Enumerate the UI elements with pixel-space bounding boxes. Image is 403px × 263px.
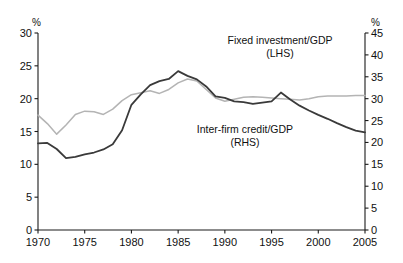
right-axis-tick-label: 0 bbox=[371, 224, 377, 236]
x-axis-tick-label: 2005 bbox=[353, 236, 377, 248]
right-axis-tick-label: 5 bbox=[371, 202, 377, 214]
x-axis-tick-label: 1990 bbox=[213, 236, 237, 248]
left-axis-tick-label: 0 bbox=[26, 224, 32, 236]
chart-container: 051015202530%051015202530354045%19701975… bbox=[0, 0, 403, 263]
left-axis-tick-label: 25 bbox=[20, 60, 32, 72]
annotations: Fixed investment/GDP(LHS)Inter-firm cred… bbox=[197, 34, 333, 148]
right-axis-tick-label: 30 bbox=[371, 93, 383, 105]
x-axis-tick-label: 1970 bbox=[26, 236, 50, 248]
right-axis-tick-label: 45 bbox=[371, 27, 383, 39]
fixed-investment-label-line2: (LHS) bbox=[266, 47, 293, 59]
left-axis-tick-label: 5 bbox=[26, 191, 32, 203]
right-axis-tick-label: 35 bbox=[371, 71, 383, 83]
inter-firm-credit-label-line1: Inter-firm credit/GDP bbox=[197, 123, 293, 135]
left-axis-unit-label: % bbox=[32, 17, 41, 28]
x-axis-tick-label: 2000 bbox=[306, 236, 330, 248]
right-axis-tick-label: 20 bbox=[371, 136, 383, 148]
x-axis-tick-label: 1980 bbox=[119, 236, 143, 248]
right-axis-tick-label: 10 bbox=[371, 180, 383, 192]
left-axis-tick-label: 10 bbox=[20, 158, 32, 170]
x-axis-tick-label: 1995 bbox=[259, 236, 283, 248]
left-axis-tick-label: 30 bbox=[20, 27, 32, 39]
series-line-inter-firm-credit-gdp bbox=[38, 71, 365, 158]
inter-firm-credit-label-line2: (RHS) bbox=[230, 136, 259, 148]
right-axis-unit-label: % bbox=[371, 17, 380, 28]
x-axis-tick-label: 1975 bbox=[72, 236, 96, 248]
left-axis-tick-label: 15 bbox=[20, 126, 32, 138]
right-axis-tick-label: 25 bbox=[371, 115, 383, 127]
x-axis-tick-label: 1985 bbox=[166, 236, 190, 248]
data-series bbox=[38, 71, 365, 158]
chart-svg: 051015202530%051015202530354045%19701975… bbox=[0, 0, 403, 263]
fixed-investment-label-line1: Fixed investment/GDP bbox=[227, 34, 332, 46]
right-axis-tick-label: 40 bbox=[371, 49, 383, 61]
left-axis-tick-label: 20 bbox=[20, 93, 32, 105]
right-axis-tick-label: 15 bbox=[371, 158, 383, 170]
